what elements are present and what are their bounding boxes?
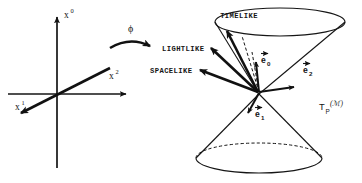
axis-label-x0-base: x — [64, 10, 69, 20]
label-spacelike: SPACELIKE — [150, 67, 193, 75]
basis-label-e0-sub: 0 — [267, 60, 271, 67]
lower-cone-left-edge — [196, 94, 259, 158]
axis-label-x0-exponent: 0 — [71, 7, 74, 14]
axis-label-x0: x 0 — [64, 7, 74, 20]
basis-label-e2: e 2 — [303, 64, 313, 78]
phi-symbol: ϕ — [128, 23, 133, 34]
upper-cone-right-edge — [259, 22, 345, 94]
figure-canvas: x 0 x 1 x 2 ϕ — [0, 0, 362, 183]
label-timelike: TIMELIKE — [220, 12, 258, 20]
left-coordinate-diagram: x 0 x 1 x 2 — [8, 7, 126, 168]
axis-label-x2: x 2 — [109, 68, 119, 81]
axis-x1 — [21, 68, 110, 113]
lower-cone-right-edge — [259, 94, 322, 158]
lower-cone-rim-back — [196, 143, 322, 158]
axis-label-x2-exponent: 2 — [116, 68, 119, 75]
lower-cone-rim-front — [196, 158, 322, 173]
label-lightlike: LIGHTLIKE — [162, 45, 205, 53]
basis-label-e0: e 0 — [261, 54, 271, 68]
figure-root: x 0 x 1 x 2 ϕ — [0, 0, 362, 183]
axis-label-x2-base: x — [109, 71, 114, 81]
axis-label-x1-base: x — [15, 102, 20, 112]
basis-label-e1-base: e — [255, 109, 260, 119]
axis-label-x1: x 1 — [15, 99, 25, 112]
tangent-space-sub: P — [326, 108, 330, 115]
basis-label-e0-base: e — [261, 55, 266, 65]
tangent-space-label: T P (ℳ) — [319, 99, 343, 115]
phi-map-arrow: ϕ — [110, 23, 150, 48]
right-lightcone-diagram: TIMELIKE LIGHTLIKE SPACELIKE e 0 e 1 e 2 — [150, 8, 345, 173]
basis-label-e1: e 1 — [255, 108, 265, 122]
tangent-space-base: T — [319, 101, 325, 112]
basis-label-e1-sub: 1 — [261, 114, 265, 121]
basis-label-e2-sub: 2 — [309, 70, 313, 77]
basis-label-e2-base: e — [303, 65, 308, 75]
tangent-space-argument: (ℳ) — [330, 99, 343, 108]
axis-label-x1-exponent: 1 — [22, 99, 25, 106]
